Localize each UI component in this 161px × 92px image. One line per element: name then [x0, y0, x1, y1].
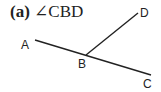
ray-bd: [86, 13, 138, 55]
line-ac: [35, 40, 151, 75]
point-label-a: A: [21, 38, 29, 52]
point-label-c: C: [143, 77, 152, 91]
point-label-b: B: [78, 57, 86, 71]
point-label-d: D: [140, 6, 149, 20]
angle-diagram: A B C D: [0, 0, 161, 92]
